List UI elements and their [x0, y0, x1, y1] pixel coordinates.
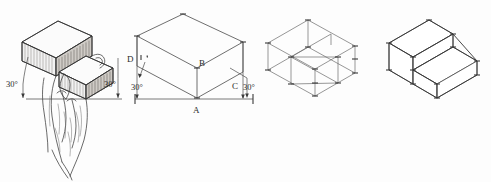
vertex-label-a: A — [193, 105, 200, 115]
d-corner-marks — [141, 55, 148, 60]
panel-pictorial-hand: 30° 30° — [0, 0, 130, 182]
isometric-box-edges — [137, 14, 243, 98]
vertex-label-d: D — [127, 54, 134, 64]
extension-lines — [137, 36, 243, 98]
vertex-label-b: B — [199, 58, 205, 68]
vertex-ticks — [134, 14, 246, 98]
arrow-right — [241, 95, 245, 100]
technical-figure: 30° 30° — [0, 0, 491, 182]
wireframe-enclosing-box — [268, 20, 355, 96]
iso-angle-left-label: 30° — [131, 82, 143, 92]
angle-left-label: 30° — [6, 79, 18, 89]
angle-annotation-left: 30° — [6, 57, 28, 98]
arrow-left — [135, 95, 139, 100]
panel-isometric-box: D B C A 30° 30° — [125, 0, 265, 182]
panel-finished-solid — [375, 0, 491, 182]
angle-right-label: 30° — [104, 79, 116, 89]
vertex-label-c: C — [232, 81, 238, 91]
panel-wireframe-construction — [260, 0, 380, 182]
wireframe-vertex-ticks — [265, 20, 358, 96]
wireframe-step-lines — [291, 34, 338, 84]
iso-angle-right-label: 30° — [243, 82, 255, 92]
